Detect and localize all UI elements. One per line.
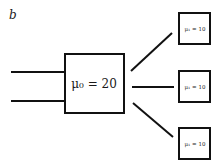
target-node-label-3: μ₁ = 10 bbox=[179, 128, 211, 159]
output-edge-1 bbox=[131, 33, 172, 71]
output-edge-3 bbox=[133, 103, 173, 137]
target-node-label-1: μ₁ = 10 bbox=[179, 13, 211, 44]
source-node-label: μ₀ = 20 bbox=[64, 54, 124, 114]
panel-label: b bbox=[9, 8, 17, 22]
target-node-label-2: μ₁ = 10 bbox=[179, 71, 211, 102]
